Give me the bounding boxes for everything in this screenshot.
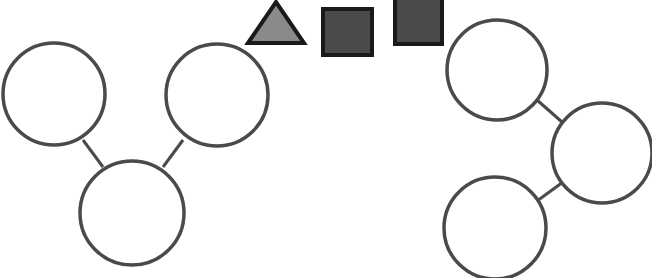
diagram-canvas bbox=[0, 0, 652, 278]
node-right-middle[interactable] bbox=[552, 103, 652, 203]
square-shape-2[interactable] bbox=[395, 0, 442, 44]
edge-right-top-to-middle bbox=[537, 100, 562, 122]
nodes-right bbox=[444, 20, 652, 278]
triangle-shape[interactable] bbox=[248, 2, 304, 43]
node-right-bottom[interactable] bbox=[444, 177, 546, 278]
node-right-top[interactable] bbox=[447, 20, 547, 120]
node-left-top-left[interactable] bbox=[3, 43, 105, 145]
shape-palette bbox=[248, 0, 442, 55]
edge-right-middle-to-bottom bbox=[537, 182, 563, 201]
node-left-bottom[interactable] bbox=[80, 161, 184, 265]
node-left-top-right[interactable] bbox=[166, 44, 268, 146]
square-shape-1[interactable] bbox=[323, 9, 372, 55]
edge-left-top-left-to-bottom bbox=[83, 140, 103, 167]
edge-left-top-right-to-bottom bbox=[163, 140, 183, 167]
nodes-left bbox=[3, 43, 268, 265]
